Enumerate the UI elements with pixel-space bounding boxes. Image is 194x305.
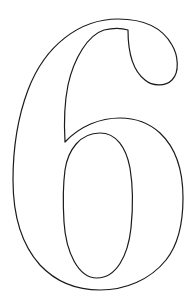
digit-six-outline-drawing — [0, 0, 194, 305]
outer-contour — [13, 19, 183, 290]
inner-counter — [63, 133, 132, 278]
digit-six-svg — [0, 0, 194, 305]
